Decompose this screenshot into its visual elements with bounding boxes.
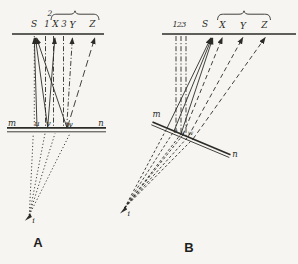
panel-b-label-i: i [128,209,131,218]
panel-b-label-Y: Y [240,21,247,31]
panel-b-caption: B [184,240,193,255]
panel-a-label-3: 3 [61,19,66,29]
panel-b-label-X: X [218,20,226,30]
panel-a-label-S: S [31,19,37,29]
panel-a-caption: A [33,235,43,250]
panel-a-label-u: u [34,119,39,128]
panel-b-label-3: 3 [181,20,186,29]
panel-a-label-Y: Y [70,20,77,30]
panel-a-label-X: X [51,19,59,29]
panel-b-sightline-verticals [176,36,186,136]
panel-a-label-1: 1 [44,19,49,29]
mirror-ray-diagram: S 1 2 X 3 Y Z m [0,0,298,264]
panel-b-label-n: n [232,149,237,159]
panel-b-label-S: S [202,19,208,29]
panel-a-label-w: w [66,120,73,129]
panel-b-rays-to-XYZ [183,38,265,139]
panel-a-label-n: n [98,118,103,128]
panel-b-label-u: u [173,127,177,135]
panel-a-label-i: i [32,216,35,225]
panel-b-label-Z: Z [260,20,268,30]
panel-a-image-point-marker [25,213,32,220]
panel-a-sightline-verticals [46,36,64,127]
panel-a-mirror [7,128,106,132]
figure-page: S 1 2 X 3 Y Z m [0,0,298,264]
panel-b-label-w: w [188,129,194,137]
panel-b-mirror [151,122,230,158]
panel-b-reflected-rays-solid [167,38,213,134]
panel-a-label-v: v [46,119,51,128]
panel-b-image-point-marker [120,206,127,213]
panel-a-reflected-rays-solid [34,38,66,127]
panel-b-virtual-rays [125,128,194,208]
panel-a: S 1 2 X 3 Y Z m [7,9,106,250]
panel-a-label-m: m [8,118,16,128]
panel-a-virtual-rays [29,134,70,216]
panel-b: 1 2 3 S X Y Z m [120,11,296,255]
panel-a-label-Z: Z [88,19,96,29]
panel-b-label-m: m [152,109,160,119]
